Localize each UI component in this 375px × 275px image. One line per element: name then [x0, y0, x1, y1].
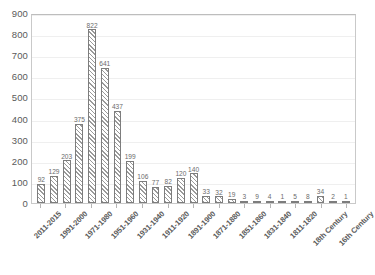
- bar[interactable]: 34: [317, 196, 325, 203]
- bar-slot: 203: [60, 15, 73, 203]
- bar-value-label: 32: [215, 190, 222, 197]
- x-label-slot: 1931-1940: [136, 208, 149, 275]
- bar[interactable]: 9: [253, 201, 261, 203]
- bar-slot: 5: [289, 15, 302, 203]
- x-label-slot: 1911-1920: [162, 208, 175, 275]
- x-label-slot: [174, 208, 187, 275]
- y-axis-tick-label: 900: [12, 9, 28, 19]
- bar-value-label: 129: [49, 169, 60, 176]
- x-label-slot: [47, 208, 60, 275]
- bar-slot: 375: [73, 15, 86, 203]
- bar[interactable]: 33: [202, 196, 210, 203]
- bar-value-label: 2: [331, 194, 335, 201]
- bar[interactable]: 106: [139, 181, 147, 203]
- bar[interactable]: 140: [190, 173, 198, 203]
- x-label-slot: 18th Century: [315, 208, 328, 275]
- x-label-slot: [98, 208, 111, 275]
- x-label-slot: [123, 208, 136, 275]
- bar-value-label: 375: [74, 117, 85, 124]
- bar[interactable]: 1: [342, 201, 350, 203]
- bar-value-label: 437: [112, 104, 123, 111]
- x-label-slot: 1991-2000: [60, 208, 73, 275]
- x-label-slot: 1951-1960: [111, 208, 124, 275]
- bar[interactable]: 2: [329, 201, 337, 203]
- bar-slot: 2: [327, 15, 340, 203]
- bar-slot: 9: [251, 15, 264, 203]
- bar-value-label: 1: [344, 194, 348, 201]
- bar-slot: 822: [86, 15, 99, 203]
- bar-slot: 92: [35, 15, 48, 203]
- bar-value-label: 106: [137, 174, 148, 181]
- bar-value-label: 19: [228, 192, 235, 199]
- x-label-slot: 2011-2015: [34, 208, 47, 275]
- y-axis-tick-label: 600: [12, 73, 28, 83]
- bar[interactable]: 92: [37, 184, 45, 203]
- x-axis-labels: 2011-20151991-20001971-19801951-19601931…: [31, 208, 356, 275]
- x-label-slot: 1851-1860: [238, 208, 251, 275]
- x-label-slot: 1891-1900: [187, 208, 200, 275]
- bar-slot: 1: [276, 15, 289, 203]
- bar-slot: 34: [314, 15, 327, 203]
- bar-slot: 8: [301, 15, 314, 203]
- bar[interactable]: 4: [266, 201, 274, 203]
- bar-value-label: 1: [281, 194, 285, 201]
- bar-value-label: 9: [255, 194, 259, 201]
- bar-value-label: 120: [175, 171, 186, 178]
- bar-slot: 4: [263, 15, 276, 203]
- bar-slot: 199: [124, 15, 137, 203]
- bar[interactable]: 641: [101, 68, 109, 203]
- bar[interactable]: 375: [75, 124, 83, 203]
- bar-value-label: 822: [87, 23, 98, 30]
- x-label-slot: [200, 208, 213, 275]
- bar[interactable]: 199: [126, 161, 134, 203]
- y-axis: 9008007006005004003002001000: [0, 14, 30, 204]
- bar[interactable]: 8: [304, 201, 312, 203]
- bar[interactable]: 1: [278, 201, 286, 203]
- bar[interactable]: 82: [164, 186, 172, 203]
- x-label-slot: [72, 208, 85, 275]
- bar-slot: 106: [137, 15, 150, 203]
- bar-value-label: 92: [38, 177, 45, 184]
- x-label-slot: 1971-1980: [85, 208, 98, 275]
- bar-value-label: 82: [165, 179, 172, 186]
- bar[interactable]: 77: [152, 187, 160, 203]
- y-axis-tick-label: 500: [12, 94, 28, 104]
- bar[interactable]: 32: [215, 196, 223, 203]
- bar-slot: 140: [187, 15, 200, 203]
- bar-value-label: 4: [268, 194, 272, 201]
- bar-value-label: 33: [203, 189, 210, 196]
- bar[interactable]: 120: [177, 178, 185, 203]
- x-label-slot: [225, 208, 238, 275]
- bar-value-label: 641: [99, 61, 110, 68]
- bar[interactable]: 203: [63, 160, 71, 203]
- x-label-slot: 1831-1840: [264, 208, 277, 275]
- y-axis-tick-label: 100: [12, 178, 28, 188]
- bar-slot: 3: [238, 15, 251, 203]
- bar[interactable]: 822: [88, 29, 96, 203]
- bar[interactable]: 5: [291, 201, 299, 203]
- bar-slot: 1: [340, 15, 353, 203]
- bar[interactable]: 129: [50, 176, 58, 203]
- bar-slot: 32: [213, 15, 226, 203]
- x-label-slot: 1811-1820: [289, 208, 302, 275]
- bar-value-label: 3: [242, 194, 246, 201]
- x-label-slot: [277, 208, 290, 275]
- bar-value-label: 140: [188, 167, 199, 174]
- plot-area: 9212920337582264143719910677821201403332…: [31, 14, 356, 204]
- x-label-slot: 1871-1880: [213, 208, 226, 275]
- x-label-slot: 16th Century: [340, 208, 353, 275]
- bar[interactable]: 19: [228, 199, 236, 203]
- y-axis-tick-label: 200: [12, 157, 28, 167]
- bar-slot: 437: [111, 15, 124, 203]
- bar[interactable]: 3: [240, 201, 248, 203]
- bar-slot: 641: [98, 15, 111, 203]
- x-axis-tick-label: 16th Century: [337, 210, 374, 247]
- bar-slot: 77: [149, 15, 162, 203]
- bar-slot: 129: [48, 15, 61, 203]
- x-label-slot: [149, 208, 162, 275]
- bar[interactable]: 437: [114, 111, 122, 203]
- bar-value-label: 203: [61, 154, 72, 161]
- bar-slot: 120: [175, 15, 188, 203]
- bar-slot: 19: [225, 15, 238, 203]
